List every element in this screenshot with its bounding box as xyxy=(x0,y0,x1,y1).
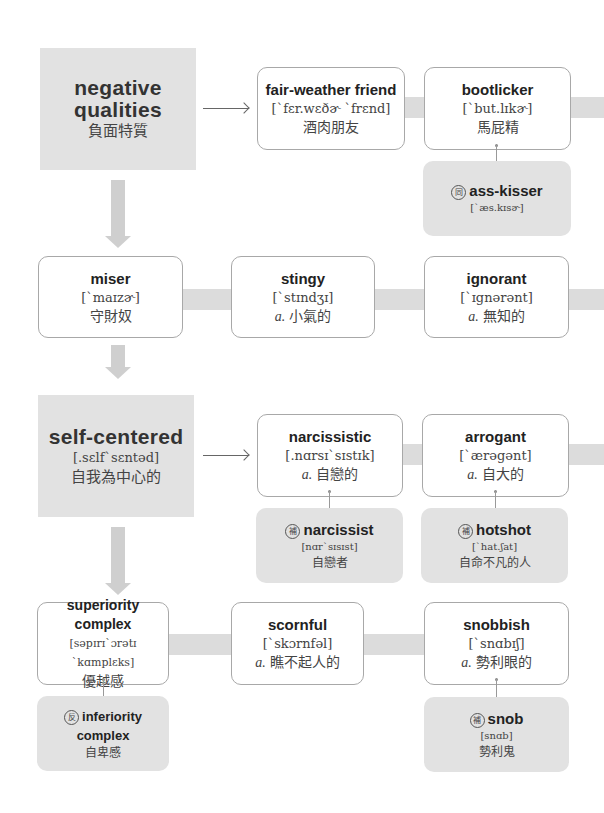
card-bootlicker: bootlicker [ˋbut.lɪkɚ] 馬屁精 xyxy=(424,67,571,150)
connector-bar xyxy=(568,289,604,310)
supplement-tag-icon: 補 xyxy=(470,713,485,728)
connector-bar xyxy=(568,444,604,465)
subcard-hotshot: 補hotshot [ˋhat.ʃat] 自命不凡的人 xyxy=(421,508,568,583)
card-zh: 自戀的 xyxy=(316,466,358,482)
card-pos: a. xyxy=(467,467,478,482)
card-word: stingy xyxy=(281,269,325,288)
subcard-zh: 自命不凡的人 xyxy=(459,555,531,571)
subcard-zh: 自戀者 xyxy=(312,555,348,571)
subcard-word: inferiority complex xyxy=(77,709,142,743)
connector-bar xyxy=(168,634,232,655)
header-negative-qualities: negative qualities 負面特質 xyxy=(40,48,196,170)
synonym-tag-icon: 同 xyxy=(451,185,466,200)
right-arrow-icon xyxy=(203,455,249,456)
subcard-zh: 勢利鬼 xyxy=(479,744,515,760)
card-superiority-complex: superiority complex [səpɪrɪˋɔrətɪ ˋkɑmpl… xyxy=(37,602,169,685)
card-zh: 勢利眼的 xyxy=(476,654,532,670)
card-zh: 酒肉朋友 xyxy=(303,118,359,137)
down-arrow-icon xyxy=(105,345,131,381)
connector-bar xyxy=(182,289,232,310)
connector-bar xyxy=(571,97,604,118)
card-narcissistic: narcissistic [.nɑrsɪˋsɪstɪk] a. 自戀的 xyxy=(257,414,403,497)
subcard-word: narcissist xyxy=(303,521,373,538)
card-word: bootlicker xyxy=(462,80,534,99)
card-zh: 馬屁精 xyxy=(477,118,519,137)
card-word: narcissistic xyxy=(289,427,372,446)
card-word: miser xyxy=(90,269,130,288)
card-stingy: stingy [ˋstɪndʒɪ] a. 小氣的 xyxy=(231,256,375,338)
card-pos: a. xyxy=(275,309,286,324)
card-scornful: scornful [ˋskɔrnfəl] a. 瞧不起人的 xyxy=(231,602,364,685)
card-ipa: [ˋskɔrnfəl] xyxy=(263,634,333,653)
connector-bar xyxy=(404,97,424,118)
subcard-ipa: [ˋhat.ʃat] xyxy=(472,539,517,555)
card-pos: a. xyxy=(461,655,472,670)
antonym-tag-icon: 反 xyxy=(64,710,79,725)
header-word-line1: negative xyxy=(74,77,162,99)
supplement-tag-icon: 補 xyxy=(458,524,473,539)
header-word-line2: qualities xyxy=(74,99,162,121)
card-zh: 守財奴 xyxy=(90,307,132,326)
card-word: fair-weather friend xyxy=(266,80,397,99)
card-word: superiority complex xyxy=(38,596,168,634)
card-ipa: [ˋærəgənt] xyxy=(459,446,531,465)
subcard-word: ass-kisser xyxy=(469,182,542,199)
subcard-word: snob xyxy=(488,710,524,727)
card-ipa: [ˋsnɑbɪʃ] xyxy=(468,634,524,653)
card-ipa: [ˋmaɪzɚ] xyxy=(81,288,140,307)
subcard-ipa: [snɑb] xyxy=(480,728,512,744)
card-arrogant: arrogant [ˋærəgənt] a. 自大的 xyxy=(422,414,569,497)
card-word: scornful xyxy=(268,615,327,634)
card-pos: a. xyxy=(468,309,479,324)
subcard-snob: 補snob [snɑb] 勢利鬼 xyxy=(424,697,569,772)
subcard-ipa: [nɑrˋsɪsɪst] xyxy=(301,539,357,555)
card-pos: a. xyxy=(302,467,313,482)
subcard-ass-kisser: 同ass-kisser [ˋæs.kɪsɚ] xyxy=(423,161,571,236)
card-word: arrogant xyxy=(465,427,526,446)
header-ipa: [.sɛlfˋsɛntəd] xyxy=(73,448,159,467)
card-word: ignorant xyxy=(467,269,527,288)
connector-bar xyxy=(402,444,424,465)
card-ipa: [ˋɪgnərənt] xyxy=(460,288,533,307)
subcard-ipa: [ˋæs.kɪsɚ] xyxy=(470,200,523,216)
card-ipa: [ˋstɪndʒɪ] xyxy=(273,288,334,307)
card-fair-weather-friend: fair-weather friend [ˋfɛr.wɛðɚ ˋfrɛnd] 酒… xyxy=(257,67,405,150)
card-ignorant: ignorant [ˋɪgnərənt] a. 無知的 xyxy=(424,256,569,338)
header-self-centered: self-centered [.sɛlfˋsɛntəd] 自我為中心的 xyxy=(38,395,194,517)
connector-bar xyxy=(374,289,424,310)
card-zh: 自大的 xyxy=(482,466,524,482)
card-ipa: [ˋfɛr.wɛðɚ ˋfrɛnd] xyxy=(272,99,391,118)
card-ipa: [.nɑrsɪˋsɪstɪk] xyxy=(285,446,374,465)
header-zh: 負面特質 xyxy=(88,121,148,141)
header-zh: 自我為中心的 xyxy=(71,467,161,487)
down-arrow-icon xyxy=(105,527,131,595)
supplement-tag-icon: 補 xyxy=(285,524,300,539)
card-miser: miser [ˋmaɪzɚ] 守財奴 xyxy=(38,256,183,338)
card-pos: a. xyxy=(255,655,266,670)
right-arrow-icon xyxy=(203,108,249,109)
card-zh: 瞧不起人的 xyxy=(270,654,340,670)
card-ipa: [səpɪrɪˋɔrətɪ ˋkɑmplɛks] xyxy=(38,634,168,672)
down-arrow-icon xyxy=(105,180,131,248)
subcard-inferiority-complex: 反inferiority complex 自卑感 xyxy=(37,696,169,771)
card-zh: 小氣的 xyxy=(289,308,331,324)
subcard-zh: 自卑感 xyxy=(85,745,121,761)
card-word: snobbish xyxy=(463,615,530,634)
header-word: self-centered xyxy=(49,426,184,448)
card-snobbish: snobbish [ˋsnɑbɪʃ] a. 勢利眼的 xyxy=(424,602,569,685)
card-zh: 無知的 xyxy=(483,308,525,324)
card-ipa: [ˋbut.lɪkɚ] xyxy=(463,99,533,118)
subcard-word: hotshot xyxy=(476,521,531,538)
subcard-narcissist: 補narcissist [nɑrˋsɪsɪst] 自戀者 xyxy=(256,508,403,583)
